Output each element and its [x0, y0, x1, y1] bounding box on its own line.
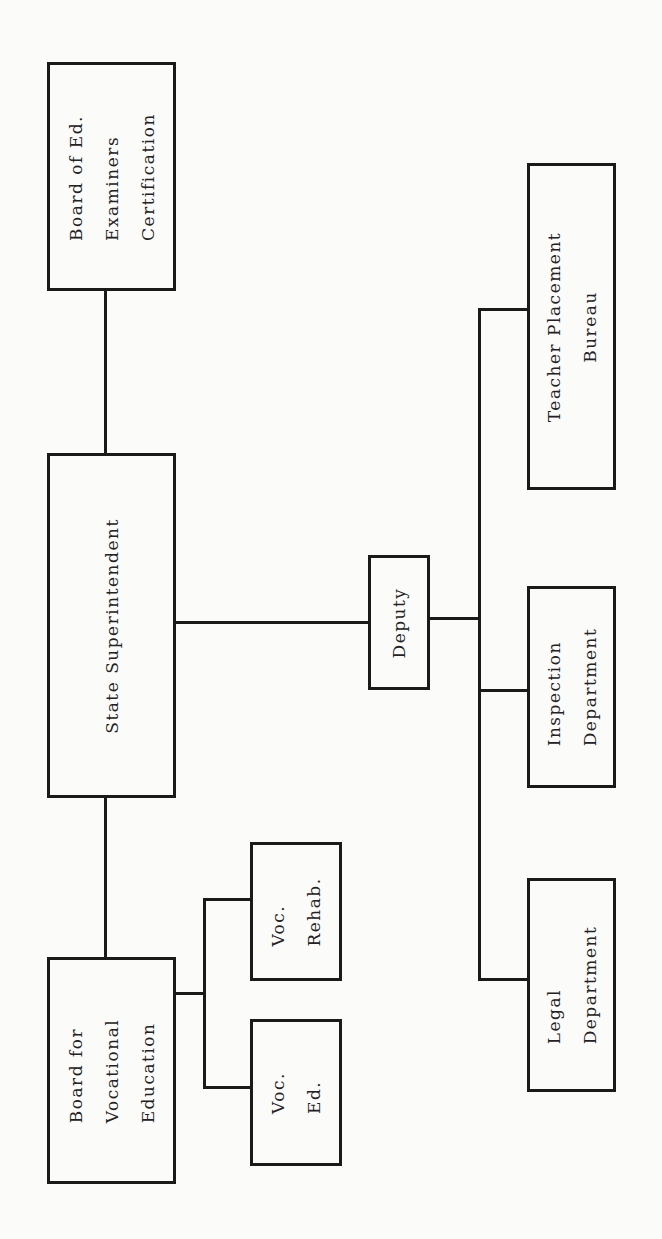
deputy-spine [478, 308, 481, 981]
connector-superintendent-vocational [104, 795, 107, 959]
node-label: Deputy [381, 587, 417, 658]
node-label: Board for Vocational Education [58, 1018, 166, 1123]
node-label: Voc. Rehab. [260, 877, 332, 946]
vocational-spine [203, 898, 206, 1089]
node-label: Legal Department [536, 926, 608, 1045]
node-label: State Superintendent [94, 518, 130, 734]
connector-spine-legal [478, 978, 529, 981]
connector-vocational-ed [203, 1086, 252, 1089]
connector-vocational-spine [173, 992, 206, 995]
node-inspection: Inspection Department [527, 586, 616, 788]
connector-deputy-spine [427, 617, 480, 620]
connector-vocational-rehab [203, 898, 252, 901]
node-label: Board of Ed. Examiners Certification [58, 113, 166, 241]
node-board-examiners: Board of Ed. Examiners Certification [47, 62, 176, 291]
node-label: Voc. Ed. [260, 1072, 332, 1114]
connector-examiners-superintendent [104, 288, 107, 455]
node-deputy: Deputy [368, 555, 430, 690]
connector-superintendent-deputy [173, 621, 370, 624]
node-voc-rehab: Voc. Rehab. [250, 842, 342, 981]
node-state-superintendent: State Superintendent [47, 453, 176, 798]
node-voc-ed: Voc. Ed. [250, 1019, 342, 1166]
connector-spine-inspection [478, 689, 529, 692]
node-teacher-placement: Teacher Placement Bureau [527, 163, 616, 490]
connector-spine-teacher-placement [478, 308, 529, 311]
node-label: Teacher Placement Bureau [536, 231, 608, 421]
node-board-vocational: Board for Vocational Education [47, 957, 176, 1184]
node-label: Inspection Department [536, 628, 608, 747]
node-legal: Legal Department [527, 878, 616, 1092]
